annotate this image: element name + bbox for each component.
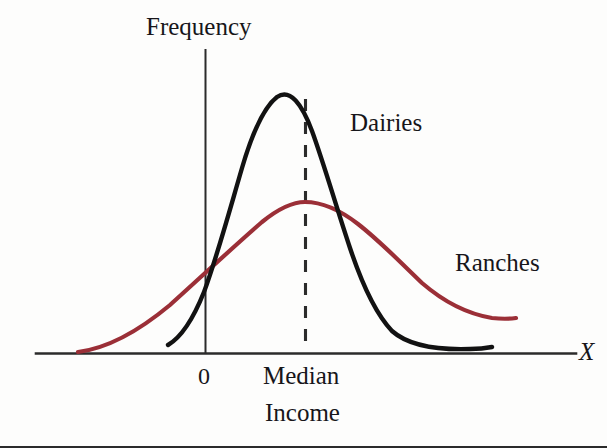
series-curve-dairies [168, 94, 492, 349]
median-income-label-line2: Income [265, 400, 340, 425]
y-axis-title: Frequency [146, 14, 252, 39]
series-label-dairies: Dairies [350, 110, 422, 135]
series-label-ranches: Ranches [455, 250, 540, 275]
x-axis-title: X [579, 339, 594, 364]
median-income-label-line1: Median [263, 363, 339, 388]
origin-tick-label: 0 [198, 364, 210, 388]
figure-container: Frequency Dairies Ranches X 0 Median Inc… [0, 0, 607, 448]
series-curve-ranches [78, 202, 516, 352]
